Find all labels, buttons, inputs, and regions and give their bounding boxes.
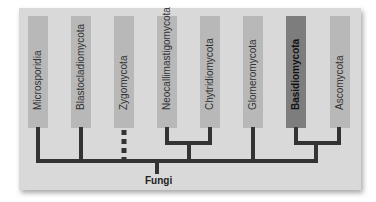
tree-branches (0, 0, 376, 202)
root-label: Fungi (145, 175, 172, 186)
